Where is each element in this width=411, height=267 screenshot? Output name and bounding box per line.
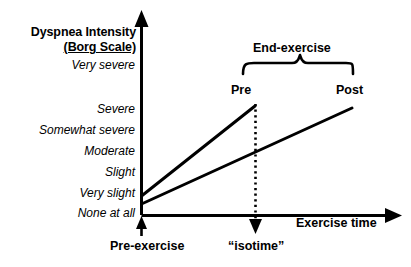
series-line-pre xyxy=(142,106,256,196)
y-axis-arrowhead-icon xyxy=(135,10,149,27)
y-tick-none-at-all: None at all xyxy=(78,206,135,220)
x-axis-title: Exercise time xyxy=(296,216,377,230)
pre-exercise-arrowhead-icon xyxy=(136,216,147,229)
end-exercise-label: End-exercise xyxy=(253,41,331,55)
x-axis-arrowhead-icon xyxy=(385,208,402,223)
y-tick-very-slight: Very slight xyxy=(79,186,135,200)
y-tick-moderate: Moderate xyxy=(84,144,135,158)
series-line-post xyxy=(142,108,353,204)
y-axis-title-line2: (Borg Scale) xyxy=(64,40,136,54)
dyspnea-intensity-chart: Dyspnea Intensity (Borg Scale) Very seve… xyxy=(0,0,411,267)
isotime-label: “isotime” xyxy=(228,239,284,253)
pre-endpoint-label: Pre xyxy=(231,83,251,97)
y-tick-severe: Severe xyxy=(97,102,135,116)
y-tick-slight: Slight xyxy=(105,165,135,179)
y-tick-somewhat-severe: Somewhat severe xyxy=(39,123,135,137)
post-endpoint-label: Post xyxy=(336,83,363,97)
isotime-arrowhead-icon xyxy=(249,219,262,234)
end-exercise-brace-icon xyxy=(243,55,353,74)
y-axis-title-line1: Dyspnea Intensity xyxy=(31,25,136,39)
y-tick-very-severe: Very severe xyxy=(71,58,135,72)
pre-exercise-label: Pre-exercise xyxy=(110,239,184,253)
